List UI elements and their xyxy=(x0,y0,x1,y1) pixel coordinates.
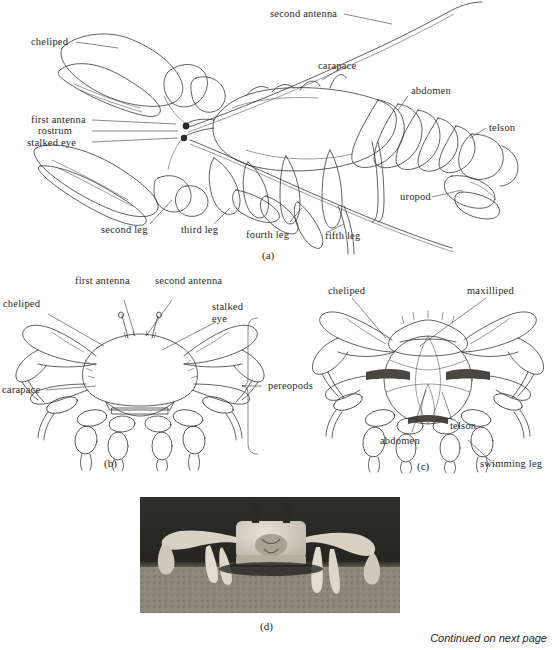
label-cheliped-c: cheliped xyxy=(328,285,365,297)
label-third-leg-a: third leg xyxy=(181,224,218,236)
crab-c-lateral-bands xyxy=(366,369,490,424)
caption-panel-d: (d) xyxy=(260,620,273,632)
ghost-crab-photo xyxy=(140,497,400,613)
label-stalked-eye-b-line2: eye xyxy=(212,313,227,325)
caption-panel-a: (a) xyxy=(262,249,274,261)
crab-c-ventral-body xyxy=(384,336,472,424)
label-first-antenna-a: first antenna xyxy=(31,114,86,126)
crab-ventral-drawing xyxy=(300,280,555,475)
panel-b-crab-dorsal: first antenna second antenna cheliped st… xyxy=(0,272,280,472)
crab-b-chelipeds xyxy=(16,325,264,402)
lobster-abdomen xyxy=(352,100,518,219)
lobster-cheliped-upper xyxy=(58,34,225,117)
label-carapace-b: carapace xyxy=(2,384,40,396)
label-rostrum-a: rostrum xyxy=(38,125,72,137)
label-maxilliped-c: maxilliped xyxy=(467,285,514,297)
label-carapace-a: carapace xyxy=(318,60,356,72)
label-second-leg-a: second leg xyxy=(101,224,148,236)
label-uropod-a: uropod xyxy=(400,191,431,203)
crustacean-anatomy-figure: second antenna cheliped carapace abdomen… xyxy=(0,0,555,650)
panel-c-crab-ventral: cheliped maxilliped telson abdomen swimm… xyxy=(300,280,555,475)
label-cheliped-b: cheliped xyxy=(3,298,40,310)
continued-note: Continued on next page xyxy=(430,632,547,644)
label-abdomen-a: abdomen xyxy=(411,85,451,97)
crab-b-carapace xyxy=(83,330,198,416)
lobster-carapace xyxy=(184,88,396,171)
crab-c-chelipeds xyxy=(312,312,543,398)
label-fourth-leg-a: fourth leg xyxy=(246,229,289,241)
label-cheliped-a: cheliped xyxy=(31,36,68,48)
label-telson-c: telson xyxy=(450,420,476,432)
label-first-antenna-b: first antenna xyxy=(75,275,130,287)
caption-panel-c: (c) xyxy=(417,460,429,472)
label-abdomen-c: abdomen xyxy=(380,435,420,447)
label-stalked-eye-a: stalked eye xyxy=(27,137,76,149)
panel-d-photograph xyxy=(140,497,400,613)
label-swimming-leg-c: swimming leg xyxy=(480,458,542,470)
panel-c-leader-lines xyxy=(352,298,496,466)
label-stalked-eye-b-line1: stalked xyxy=(212,301,243,313)
lobster-cheliped-lower xyxy=(34,145,208,225)
caption-panel-b: (b) xyxy=(104,457,117,469)
lobster-drawing xyxy=(0,0,555,265)
crab-b-pereopods xyxy=(30,384,249,471)
label-second-antenna-b: second antenna xyxy=(155,275,222,287)
crab-c-maxillipeds xyxy=(389,310,468,356)
label-fifth-leg-a: fifth leg xyxy=(325,230,360,242)
label-telson-a: telson xyxy=(489,122,515,134)
label-second-antenna-a: second antenna xyxy=(270,8,337,20)
panel-a-lobster: second antenna cheliped carapace abdomen… xyxy=(0,0,555,265)
